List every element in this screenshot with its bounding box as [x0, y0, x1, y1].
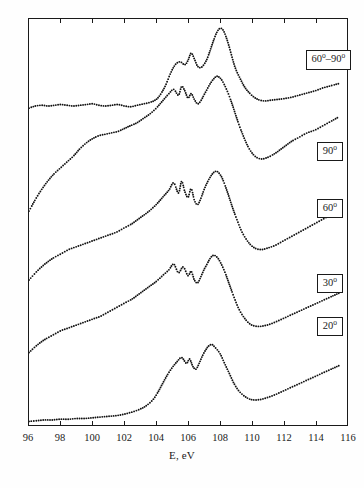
x-tick-label: 100 — [84, 432, 100, 443]
x-tick-label: 110 — [244, 432, 259, 443]
x-tick-mark — [92, 421, 93, 426]
x-tick-mark — [124, 421, 125, 426]
curve-60º–90º — [29, 27, 339, 109]
x-axis-title: E, eV — [0, 449, 364, 461]
x-tick-label: 102 — [116, 432, 132, 443]
x-tick-label: 114 — [308, 432, 323, 443]
x-tick-mark — [60, 421, 61, 426]
x-tick-mark — [124, 18, 125, 23]
x-tick-mark — [156, 421, 157, 426]
spectra-curves — [29, 19, 347, 425]
x-tick-label: 96 — [23, 432, 34, 443]
x-tick-mark — [252, 421, 253, 426]
x-tick-mark — [156, 18, 157, 23]
x-tick-mark — [284, 421, 285, 426]
curve-20º — [29, 344, 340, 423]
x-tick-mark — [92, 18, 93, 23]
series-label-60-90: 60o–90o — [306, 50, 352, 70]
x-tick-mark — [284, 18, 285, 23]
x-tick-mark — [188, 421, 189, 426]
x-tick-label: 108 — [212, 432, 228, 443]
x-tick-mark — [60, 18, 61, 23]
curve-60º — [29, 170, 339, 281]
figure-container: 9698100102104106108110112114116 E, eV 60… — [0, 0, 364, 488]
x-tick-label: 106 — [180, 432, 196, 443]
series-label-60: 60o — [317, 199, 343, 219]
series-label-30: 30o — [317, 274, 343, 294]
x-tick-label: 98 — [55, 432, 66, 443]
x-tick-label: 104 — [148, 432, 164, 443]
x-tick-label: 112 — [276, 432, 291, 443]
x-tick-label: 116 — [340, 432, 355, 443]
curve-30º — [29, 255, 340, 354]
x-tick-mark — [220, 421, 221, 426]
x-tick-mark — [188, 18, 189, 23]
curve-90º — [29, 75, 338, 212]
x-tick-mark — [220, 18, 221, 23]
series-label-20: 20o — [317, 317, 343, 337]
x-tick-mark — [316, 18, 317, 23]
x-tick-mark — [316, 421, 317, 426]
x-tick-mark — [252, 18, 253, 23]
plot-area — [28, 18, 348, 426]
series-label-90: 90o — [317, 142, 343, 162]
